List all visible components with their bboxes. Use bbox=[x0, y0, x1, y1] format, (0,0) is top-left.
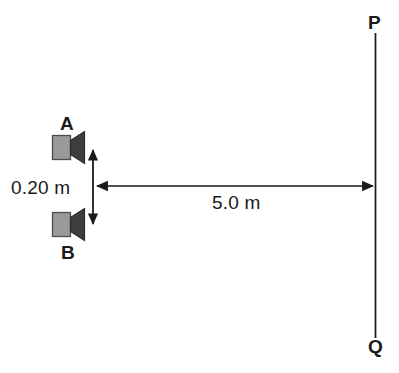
speaker-b-label: B bbox=[61, 243, 75, 262]
speaker-a-body bbox=[53, 136, 71, 160]
speaker-interference-diagram: A B P Q 0.20 m 5.0 m bbox=[0, 0, 399, 373]
horizontal-distance-label: 5.0 m bbox=[212, 193, 261, 212]
speaker-b bbox=[53, 209, 85, 241]
separation-distance-label: 0.20 m bbox=[11, 178, 70, 197]
speaker-a bbox=[53, 132, 85, 164]
speaker-b-horn-icon bbox=[71, 209, 85, 241]
speaker-a-label: A bbox=[60, 114, 74, 133]
speaker-b-body bbox=[53, 213, 71, 237]
speaker-a-horn-icon bbox=[71, 132, 85, 164]
line-endpoint-p-label: P bbox=[368, 13, 381, 32]
line-endpoint-q-label: Q bbox=[368, 337, 383, 356]
